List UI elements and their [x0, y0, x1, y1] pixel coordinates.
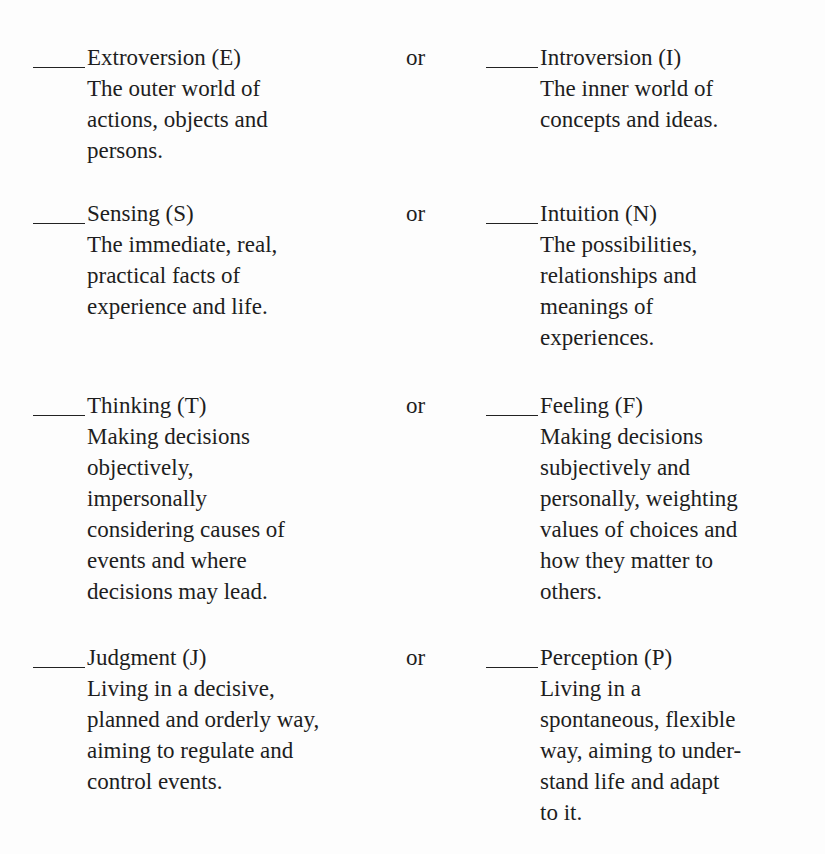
option-description: Living in a decisive, planned and orderl…	[87, 673, 363, 797]
option-heading: Judgment (J)	[87, 642, 206, 673]
option-description: The inner world of concepts and ideas.	[540, 73, 806, 135]
or-connector: or	[406, 198, 425, 229]
or-connector: or	[406, 42, 425, 73]
answer-blank-perception[interactable]	[486, 647, 538, 668]
answer-blank-sensing[interactable]	[33, 203, 85, 224]
option-description: Making decisions subjectively and person…	[540, 421, 806, 607]
option-heading: Thinking (T)	[87, 390, 206, 421]
option-heading: Introversion (I)	[540, 42, 681, 73]
answer-blank-extroversion[interactable]	[33, 47, 85, 68]
option-heading: Intuition (N)	[540, 198, 657, 229]
option-description: The outer world of actions, objects and …	[87, 73, 363, 166]
or-connector: or	[406, 642, 425, 673]
or-connector: or	[406, 390, 425, 421]
answer-blank-intuition[interactable]	[486, 203, 538, 224]
preference-option-sensing: Sensing (S) The immediate, real, practic…	[33, 198, 363, 322]
option-heading: Extroversion (E)	[87, 42, 241, 73]
option-heading: Feeling (F)	[540, 390, 643, 421]
preference-option-thinking: Thinking (T) Making decisions objectivel…	[33, 390, 363, 607]
preference-option-judgment: Judgment (J) Living in a decisive, plann…	[33, 642, 363, 797]
option-description: Living in a spontaneous, flexible way, a…	[540, 673, 806, 828]
option-description: Making decisions objectively, impersonal…	[87, 421, 363, 607]
answer-blank-judgment[interactable]	[33, 647, 85, 668]
preference-option-perception: Perception (P) Living in a spontaneous, …	[486, 642, 806, 828]
preference-option-intuition: Intuition (N) The possibilities, relatio…	[486, 198, 806, 353]
preference-option-introversion: Introversion (I) The inner world of conc…	[486, 42, 806, 135]
option-heading: Sensing (S)	[87, 198, 194, 229]
answer-blank-thinking[interactable]	[33, 395, 85, 416]
preference-option-feeling: Feeling (F) Making decisions subjectivel…	[486, 390, 806, 607]
answer-blank-introversion[interactable]	[486, 47, 538, 68]
option-heading: Perception (P)	[540, 642, 672, 673]
preference-option-extroversion: Extroversion (E) The outer world of acti…	[33, 42, 363, 166]
option-description: The immediate, real, practical facts of …	[87, 229, 363, 322]
option-description: The possibilities, relationships and mea…	[540, 229, 806, 353]
answer-blank-feeling[interactable]	[486, 395, 538, 416]
